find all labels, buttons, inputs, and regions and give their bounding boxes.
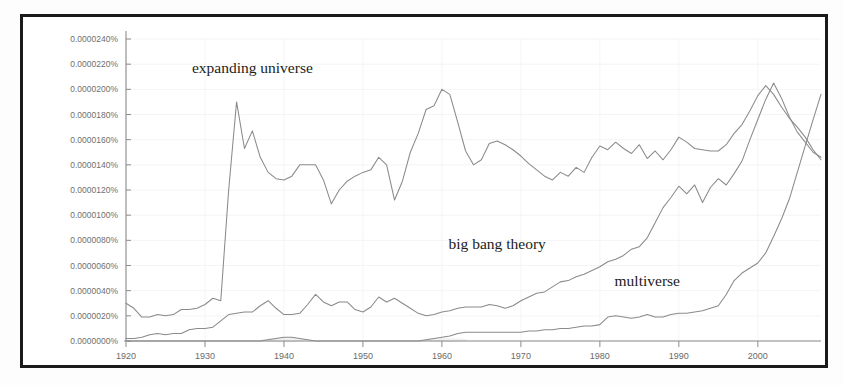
- x-tick-label: 2000: [748, 351, 768, 361]
- y-tick-label: 0.0000200%: [70, 84, 118, 94]
- y-tick-label: 0.0000060%: [70, 261, 118, 271]
- series-annotations: expanding universebig bang theorymultive…: [192, 59, 680, 289]
- page-root: 0.0000240%0.0000220%0.0000200%0.0000180%…: [0, 0, 843, 385]
- x-tick-label: 1940: [274, 351, 294, 361]
- y-tick-label: 0.0000000%: [70, 336, 118, 346]
- series-line-expanding-universe[interactable]: [126, 86, 821, 318]
- plot-area[interactable]: 0.0000240%0.0000220%0.0000200%0.0000180%…: [23, 17, 825, 365]
- x-axis: 192019301940195019601970198019902000: [116, 341, 821, 361]
- y-tick-label: 0.0000080%: [70, 235, 118, 245]
- y-tick-label: 0.0000220%: [70, 59, 118, 69]
- y-tick-label: 0.0000180%: [70, 110, 118, 120]
- y-tick-label: 0.0000100%: [70, 210, 118, 220]
- x-tick-label: 1950: [353, 351, 373, 361]
- y-tick-label: 0.0000240%: [70, 34, 118, 44]
- y-axis: 0.0000240%0.0000220%0.0000200%0.0000180%…: [70, 31, 131, 346]
- ngram-line-chart[interactable]: 0.0000240%0.0000220%0.0000200%0.0000180%…: [23, 17, 825, 365]
- y-tick-label: 0.0000160%: [70, 135, 118, 145]
- y-tick-label: 0.0000020%: [70, 311, 118, 321]
- ngram-chart-frame: 0.0000240%0.0000220%0.0000200%0.0000180%…: [20, 14, 828, 368]
- x-tick-label: 1980: [590, 351, 610, 361]
- y-tick-label: 0.0000120%: [70, 185, 118, 195]
- x-tick-label: 1920: [116, 351, 136, 361]
- y-tick-label: 0.0000140%: [70, 160, 118, 170]
- series-label-expanding-universe: expanding universe: [192, 59, 313, 76]
- y-tick-label: 0.0000040%: [70, 286, 118, 296]
- series-label-big-bang-theory: big bang theory: [449, 235, 547, 252]
- series-label-multiverse: multiverse: [615, 272, 681, 289]
- series-line-big-bang-theory[interactable]: [126, 83, 821, 338]
- x-tick-label: 1990: [669, 351, 689, 361]
- x-tick-label: 1960: [432, 351, 452, 361]
- gridlines: [126, 39, 821, 341]
- series-line-multiverse[interactable]: [126, 94, 821, 341]
- x-tick-label: 1930: [195, 351, 215, 361]
- series-lines[interactable]: [126, 83, 821, 341]
- x-tick-label: 1970: [511, 351, 531, 361]
